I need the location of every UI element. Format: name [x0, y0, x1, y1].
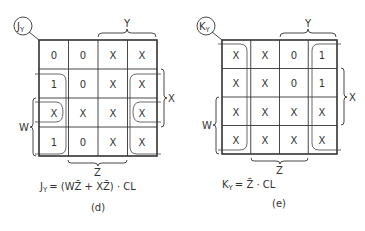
cell: 0: [291, 50, 297, 61]
cell: X: [233, 78, 240, 89]
var-brace-z: Z: [251, 158, 308, 176]
var-label-x: X: [349, 92, 356, 103]
cell: 1: [319, 50, 325, 61]
cell: 0: [291, 78, 297, 89]
cell: 0: [80, 79, 86, 90]
svg-text:JY: JY: [16, 21, 25, 34]
cell: X: [319, 135, 326, 146]
var-brace-x: X: [161, 69, 175, 127]
cell: 1: [51, 137, 57, 148]
kmap-d: JY 0 0 X X 1 0 X X X X X X 1 0 X X: [14, 17, 175, 213]
cell: X: [262, 78, 269, 89]
var-label-y: Y: [304, 18, 312, 29]
equation: JY= (WZ̄ + XZ̄) · CL: [39, 180, 136, 194]
cell: X: [262, 50, 269, 61]
cell: 0: [80, 50, 86, 61]
cell: X: [110, 137, 117, 148]
var-brace-y: Y: [280, 18, 336, 37]
var-label-y: Y: [123, 18, 131, 29]
cell: 0: [80, 137, 86, 148]
var-label-x: X: [168, 93, 175, 104]
cell: X: [291, 107, 298, 118]
var-label-w: W: [202, 120, 212, 131]
cell: 1: [51, 79, 57, 90]
cell: 1: [319, 78, 325, 89]
map-name-bubble: KY: [197, 17, 222, 40]
kmap-e: KY X X 0 1 X X 0 1 X X X X X X X X: [197, 17, 356, 209]
cell: X: [139, 50, 146, 61]
cell: X: [139, 108, 146, 119]
var-label-z: Z: [94, 167, 101, 178]
cell: X: [291, 135, 298, 146]
svg-text:KY: KY: [199, 21, 211, 34]
caption: (d): [91, 202, 105, 213]
cell: X: [110, 79, 117, 90]
cell: X: [51, 108, 58, 119]
cell: X: [80, 108, 87, 119]
var-brace-z: Z: [68, 160, 127, 178]
var-label-w: W: [19, 122, 29, 133]
equation: KY= Z̄ · CL: [222, 178, 276, 192]
map-name-bubble: JY: [14, 17, 39, 40]
cell: X: [139, 79, 146, 90]
cell: X: [233, 107, 240, 118]
var-label-z: Z: [276, 165, 283, 176]
var-brace-x: X: [341, 68, 356, 125]
cell: X: [319, 107, 326, 118]
caption: (e): [272, 198, 286, 209]
karnaugh-maps-figure: JY 0 0 X X 1 0 X X X X X X 1 0 X X: [0, 0, 365, 231]
cell: X: [262, 107, 269, 118]
cell: 0: [51, 50, 57, 61]
var-brace-w: W: [19, 98, 36, 156]
var-brace-w: W: [202, 97, 219, 154]
cell: X: [233, 135, 240, 146]
var-brace-y: Y: [98, 18, 156, 37]
cell: X: [262, 135, 269, 146]
map-name-subscript: Y: [19, 26, 25, 34]
cell: X: [139, 137, 146, 148]
cell: X: [233, 50, 240, 61]
cell: X: [110, 108, 117, 119]
cell: X: [110, 50, 117, 61]
map-name-subscript: Y: [205, 26, 211, 34]
